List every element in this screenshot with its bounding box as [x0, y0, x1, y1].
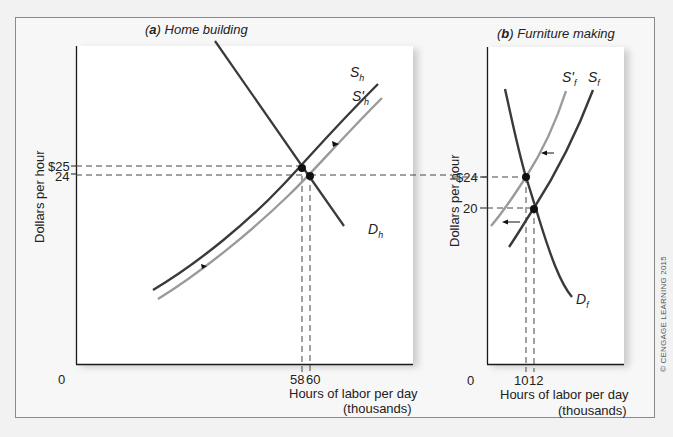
- panel-b-equilibrium-initial: [530, 205, 538, 213]
- panel-b-shifted-supply-curve: [491, 91, 566, 226]
- panel-b-supply-curve: [509, 90, 593, 247]
- panel-b-guide-lines: [452, 177, 534, 372]
- panel-b-equilibrium-new: [522, 173, 530, 181]
- label-S-prime-f: S'f: [562, 69, 578, 88]
- panel-b-shift-arrow-lower: [502, 220, 520, 225]
- chart-graphics: Sh S'h Dh S'f Sf Df: [0, 0, 673, 437]
- label-S-f: Sf: [588, 69, 601, 88]
- panel-a-demand-curve: [215, 41, 344, 226]
- label-S-h: Sh: [350, 64, 364, 83]
- panel-a-equilibrium-new: [306, 172, 314, 180]
- panel-a-guide-lines: [76, 166, 452, 372]
- label-D-f: Df: [576, 291, 590, 310]
- label-S-prime-h: S'h: [352, 88, 369, 107]
- panel-a-equilibrium-initial: [298, 164, 306, 172]
- label-D-h: Dh: [368, 221, 383, 240]
- panel-b-axes: [480, 47, 624, 365]
- panel-b-shift-arrow-upper: [541, 151, 554, 156]
